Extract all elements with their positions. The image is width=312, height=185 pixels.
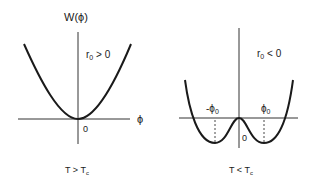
- right-caption-sub: c: [250, 170, 253, 176]
- neg-min-sub: 0: [215, 108, 219, 115]
- right-caption-main: T < T: [229, 165, 250, 175]
- pos-min-sub: 0: [267, 108, 271, 115]
- left-caption: T > Tc: [65, 165, 89, 176]
- right-origin-label: 0: [242, 133, 247, 143]
- left-x-axis-label: ϕ: [137, 113, 143, 125]
- neg-min-phi: -ϕ: [206, 103, 215, 114]
- left-y-axis-label: W(ϕ): [64, 11, 88, 23]
- left-panel: W(ϕ) r0 > 0 ϕ 0 T > Tc: [18, 11, 143, 176]
- left-caption-sub: c: [86, 170, 89, 176]
- left-origin-label: 0: [83, 124, 88, 134]
- right-caption: T < Tc: [229, 165, 253, 176]
- right-condition-label: r0 < 0: [257, 48, 282, 60]
- left-caption-main: T > T: [65, 165, 86, 175]
- left-condition-label: r0 > 0: [86, 49, 111, 61]
- left-condition-rel: > 0: [93, 49, 110, 60]
- pos-min-label: ϕ0: [261, 103, 271, 115]
- landau-potential-figure: W(ϕ) r0 > 0 ϕ 0 T > Tc r0 < 0 -ϕ0 ϕ0 0 T…: [0, 0, 312, 185]
- neg-min-label: -ϕ0: [206, 103, 219, 115]
- right-panel: r0 < 0 -ϕ0 ϕ0 0 T < Tc: [179, 28, 298, 176]
- right-condition-rel: < 0: [264, 48, 281, 59]
